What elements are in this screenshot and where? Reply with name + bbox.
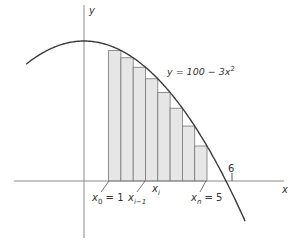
leader-xim1 bbox=[137, 181, 145, 192]
rectangle bbox=[170, 108, 182, 181]
rectangle bbox=[182, 126, 194, 181]
x-axis-label: x bbox=[281, 184, 288, 195]
rectangle bbox=[133, 67, 145, 181]
rectangle bbox=[146, 79, 158, 181]
y-axis-label: y bbox=[88, 5, 96, 16]
xim1-label: xi−1 bbox=[127, 192, 146, 206]
rectangle bbox=[121, 58, 133, 181]
xn-label: xn = 5 bbox=[190, 192, 222, 206]
root-label-6: 6 bbox=[228, 163, 234, 174]
xi-label: xi bbox=[151, 183, 160, 197]
rectangle bbox=[195, 146, 207, 181]
leader-xn bbox=[200, 181, 206, 192]
x0-label: x0 = 1 bbox=[91, 192, 124, 206]
equation-label: y = 100 − 3x2 bbox=[166, 65, 235, 77]
leader-x0 bbox=[101, 181, 109, 192]
rectangle bbox=[158, 92, 170, 181]
rectangle bbox=[109, 50, 121, 181]
riemann-sum-chart: y x 6 y = 100 − 3x2 x0 = 1 xi−1 xi xn = … bbox=[0, 0, 300, 251]
